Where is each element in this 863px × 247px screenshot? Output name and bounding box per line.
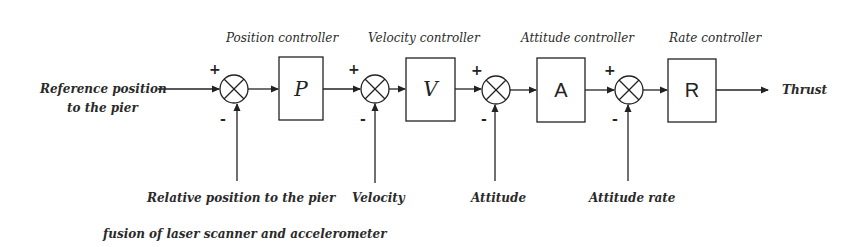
minus-sign-3: - [481, 112, 487, 126]
sensor-fusion-note: fusion of laser scanner and acceleromete… [103, 228, 387, 240]
feedback-label-2: Velocity [352, 192, 405, 204]
control-block-diagram: Reference position to the pier Position … [0, 0, 863, 247]
input-label-line2: to the pier [67, 102, 138, 114]
summing-junction-3 [482, 76, 510, 104]
input-label-line1: Reference position [40, 83, 167, 95]
block-symbol-V: V [406, 79, 455, 99]
summing-junction-1 [220, 75, 248, 103]
feedback-label-4: Attitude rate [589, 192, 676, 204]
minus-sign-4: - [612, 112, 618, 126]
plus-sign-1: + [209, 62, 221, 76]
plus-sign-4: + [604, 63, 616, 77]
feedback-label-1: Relative position to the pier [147, 192, 335, 204]
plus-sign-3: + [471, 63, 483, 77]
block-symbol-A: A [537, 80, 585, 100]
summing-junction-2 [361, 75, 389, 103]
block-title-rate: Rate controller [669, 32, 761, 44]
feedback-label-3: Attitude [471, 192, 526, 204]
summing-junction-4 [615, 76, 643, 104]
output-label: Thrust [782, 84, 827, 96]
block-title-position: Position controller [226, 32, 338, 44]
plus-sign-2: + [348, 62, 360, 76]
block-title-attitude: Attitude controller [521, 32, 634, 44]
block-title-velocity: Velocity controller [368, 32, 480, 44]
minus-sign-2: - [360, 112, 366, 126]
minus-sign-1: - [220, 112, 226, 126]
block-symbol-R: R [668, 80, 716, 100]
block-symbol-P: P [279, 79, 323, 99]
